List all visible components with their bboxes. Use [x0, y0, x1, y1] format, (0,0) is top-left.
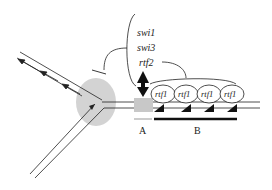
replication-fork-diagram: swi1 swi3 rtf2 rtf1 rtf1 rtf1 rtf1 A B [0, 0, 272, 190]
label-region-b: B [194, 125, 201, 136]
inhibition-bar [92, 70, 106, 74]
svg-text:rtf1: rtf1 [224, 89, 236, 99]
label-rtf2: rtf2 [139, 57, 153, 68]
svg-text:rtf1: rtf1 [201, 89, 213, 99]
label-swi1: swi1 [137, 27, 155, 38]
factor-bracket [127, 14, 136, 86]
leading-strand-arm [17, 52, 102, 100]
rtf2-link-line [162, 62, 186, 78]
label-swi3: swi3 [137, 42, 155, 53]
rtf1-cluster-bracket [150, 79, 236, 84]
inhibition-line [104, 48, 127, 70]
label-region-a: A [139, 125, 147, 136]
svg-text:rtf1: rtf1 [178, 89, 190, 99]
svg-text:rtf1: rtf1 [155, 89, 167, 99]
double-arrow-icon [137, 71, 149, 97]
site-a-box [134, 98, 153, 112]
